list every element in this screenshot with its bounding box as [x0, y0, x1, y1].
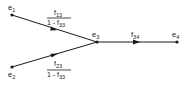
node-e4 — [175, 40, 178, 43]
arrow-icon — [133, 40, 140, 45]
arrow-icon — [51, 54, 59, 58]
node-e1 — [10, 13, 13, 16]
signal-flow-graph: e1 e2 e3 e4 f13 1 - f33 f23 1 - f33 f34 — [0, 0, 186, 88]
gain-f23: f23 1 - f33 — [47, 60, 71, 80]
svg-text:1 - f33: 1 - f33 — [47, 19, 65, 28]
svg-text:f13: f13 — [54, 9, 62, 18]
gain-f13: f13 1 - f33 — [47, 9, 71, 28]
node-e2 — [10, 65, 13, 68]
node-label-e4: e4 — [172, 30, 179, 40]
node-label-e2: e2 — [8, 70, 15, 80]
svg-text:f23: f23 — [54, 60, 62, 69]
svg-text:1 - f33: 1 - f33 — [47, 71, 65, 80]
node-e3 — [95, 40, 98, 43]
gain-f34: f34 — [131, 30, 139, 40]
node-label-e3: e3 — [92, 30, 99, 40]
node-label-e1: e1 — [8, 3, 15, 13]
